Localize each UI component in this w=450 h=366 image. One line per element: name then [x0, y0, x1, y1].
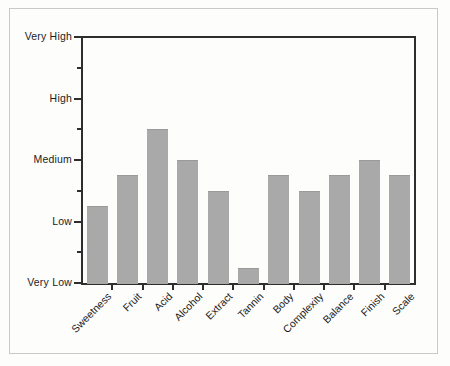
y-axis-labels: Very LowLowMediumHighVery High	[0, 0, 72, 366]
chart-page: Very LowLowMediumHighVery High Sweetness…	[0, 0, 450, 366]
x-axis-tick	[263, 283, 265, 290]
plot-area	[82, 37, 415, 283]
y-axis-tick-label: Very High	[0, 30, 72, 42]
y-axis-tick-label: Medium	[0, 153, 72, 165]
bar	[87, 206, 108, 284]
x-axis-tick	[142, 283, 144, 290]
x-axis-tick	[384, 283, 386, 290]
bar	[268, 175, 289, 284]
bar	[359, 160, 380, 284]
x-axis-tick	[293, 283, 295, 290]
x-axis-tick	[202, 283, 204, 290]
x-axis-tick	[353, 283, 355, 290]
bar	[177, 160, 198, 284]
x-axis-tick	[232, 283, 234, 290]
bar	[117, 175, 138, 284]
bar	[238, 268, 259, 284]
x-axis-tick	[172, 283, 174, 290]
bar	[147, 129, 168, 284]
bar	[329, 175, 350, 284]
bar	[299, 191, 320, 284]
y-axis-tick-label: High	[0, 92, 72, 104]
y-axis-tick-label: Low	[0, 215, 72, 227]
x-axis-tick	[111, 283, 113, 290]
x-axis-tick	[323, 283, 325, 290]
y-axis-tick-label: Very Low	[0, 276, 72, 288]
bar	[389, 175, 410, 284]
bar	[208, 191, 229, 284]
